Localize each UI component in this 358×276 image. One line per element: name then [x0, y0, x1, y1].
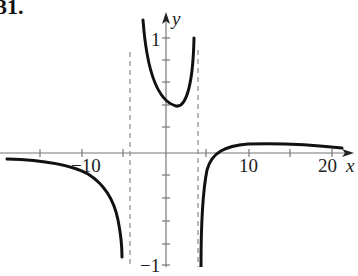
x-tick-label-neg10: −10	[71, 156, 101, 175]
left-branch-curve	[7, 159, 122, 257]
x-axis-label: x	[346, 156, 354, 175]
y-tick-label-neg1: −1	[140, 256, 160, 275]
x-tick-label-10: 10	[239, 156, 258, 175]
y-axis-label: y	[172, 9, 180, 28]
x-tick-label-20: 20	[318, 156, 337, 175]
y-tick-label-1: 1	[151, 30, 161, 49]
